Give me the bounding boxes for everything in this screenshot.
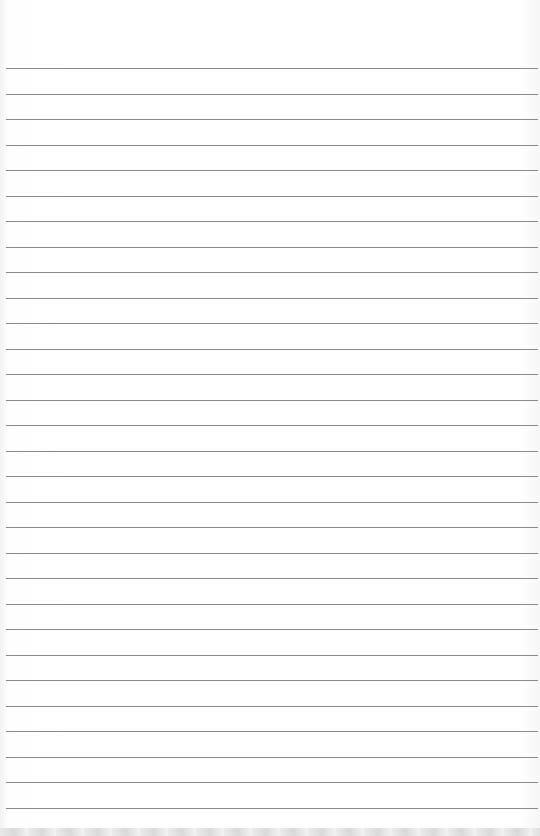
ruled-line bbox=[6, 400, 538, 401]
ruled-line bbox=[6, 349, 538, 350]
ruled-line bbox=[6, 119, 538, 120]
ruled-line bbox=[6, 298, 538, 299]
ruled-line bbox=[6, 374, 538, 375]
ruled-line bbox=[6, 527, 538, 528]
ruled-line bbox=[6, 502, 538, 503]
ruled-line bbox=[6, 782, 538, 783]
ruled-line bbox=[6, 323, 538, 324]
lined-paper-sheet bbox=[0, 0, 540, 836]
ruled-line bbox=[6, 706, 538, 707]
ruled-line bbox=[6, 451, 538, 452]
ruled-line bbox=[6, 578, 538, 579]
ruled-line bbox=[6, 272, 538, 273]
ruled-line bbox=[6, 196, 538, 197]
ruled-line bbox=[6, 655, 538, 656]
ruled-line bbox=[6, 604, 538, 605]
ruled-line bbox=[6, 808, 538, 809]
ruled-line bbox=[6, 731, 538, 732]
ruled-line bbox=[6, 553, 538, 554]
ruled-line bbox=[6, 476, 538, 477]
ruled-line bbox=[6, 145, 538, 146]
ruled-line bbox=[6, 680, 538, 681]
ruled-line bbox=[6, 425, 538, 426]
ruled-line bbox=[6, 170, 538, 171]
ruled-line bbox=[6, 68, 538, 69]
ruled-line bbox=[6, 247, 538, 248]
paper-bottom-edge bbox=[0, 828, 540, 836]
ruled-line bbox=[6, 757, 538, 758]
ruled-line bbox=[6, 221, 538, 222]
ruled-line bbox=[6, 629, 538, 630]
ruled-line bbox=[6, 94, 538, 95]
